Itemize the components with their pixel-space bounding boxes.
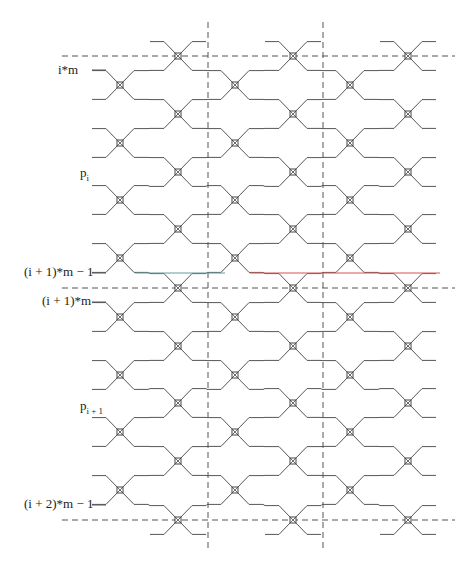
sorting-network-diagram — [0, 0, 462, 575]
wire-segment — [321, 389, 322, 390]
label-row-i1-m-1: (i + 1)*m − 1 — [24, 264, 94, 280]
wire-segment — [263, 186, 265, 187]
wire-segment — [321, 504, 322, 505]
wire-segment — [206, 504, 207, 505]
label-row-i-m: i*m — [58, 62, 78, 78]
label-block-pi1: pi + 1 — [80, 398, 103, 416]
wire-segment — [378, 504, 380, 505]
wire-segment — [206, 186, 207, 187]
wire-segment — [148, 186, 150, 187]
wire-segment — [378, 186, 380, 187]
wire-segment — [263, 504, 265, 505]
label-row-i2-m-1: (i + 2)*m − 1 — [24, 496, 94, 512]
wire-segment — [206, 389, 207, 390]
wire-segment — [148, 504, 150, 505]
wire-segment — [378, 389, 380, 390]
label-block-pi: pi — [80, 165, 89, 183]
wire-segment — [148, 389, 150, 390]
wire-segment — [321, 186, 322, 187]
label-row-i1-m: (i + 1)*m — [42, 293, 91, 309]
wire-segment — [263, 389, 265, 390]
